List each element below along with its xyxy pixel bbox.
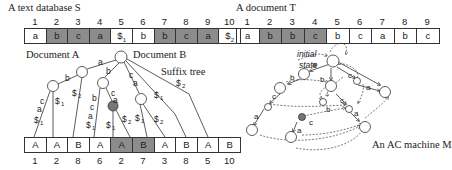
svg-text:b: b — [326, 105, 331, 114]
svg-text:c: c — [309, 118, 313, 127]
svg-text:a: a — [366, 83, 371, 92]
svg-text:a: a — [297, 126, 302, 135]
state-label: state — [299, 60, 318, 70]
initial-state-node — [327, 55, 339, 67]
svg-text:c: c — [340, 96, 344, 105]
svg-text:b: b — [320, 75, 325, 84]
svg-text:a: a — [354, 109, 359, 118]
ac-machine-label: An AC machine M — [372, 139, 452, 150]
svg-text:b: b — [290, 73, 295, 82]
svg-text:c: c — [272, 92, 276, 101]
initial-label: initial — [297, 49, 317, 59]
svg-text:c: c — [348, 71, 352, 80]
svg-text:a: a — [254, 112, 259, 121]
